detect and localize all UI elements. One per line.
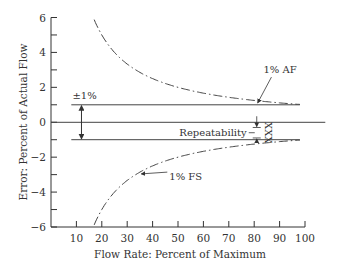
x-tick-label: 60 [197,232,210,244]
x-tick-label: 80 [248,232,261,244]
x-tick-label: 30 [121,232,134,244]
y-tick-label: −6 [31,221,47,233]
x-tick-label: 40 [146,232,159,244]
x-tick-label: 100 [295,232,315,244]
annotations-group: ±1%1% AF1% FSRepeatabilityXXX [72,64,296,182]
series-1-fs-upper [94,20,300,105]
x-axis-label: Flow Rate: Percent of Maximum [94,248,266,260]
annotation-1pct-fs-arrow [141,172,167,174]
y-tick-label: 4 [39,46,46,58]
x-tick-label: 70 [222,232,235,244]
y-tick-label: −2 [31,151,46,163]
series-1-fs-lower [94,140,300,225]
y-axis-label: Error: Percent of Actual Flow [17,43,29,200]
y-tick-label: −4 [31,186,47,198]
chart: 6420−2−4−6102030405060708090100 ±1%1% AF… [0,0,341,270]
annotation-1pct-fs-label: 1% FS [169,171,202,182]
x-tick-label: 10 [70,232,83,244]
annotation-1pct-af-arrow [258,77,272,103]
annotation-xxx-marks: XXX [263,122,274,144]
series-group [51,20,325,225]
annotation-1pct-af-label: 1% AF [263,64,296,75]
y-tick-label: 0 [39,116,46,128]
annotation-repeatability-label: Repeatability [179,127,247,138]
annotation-pm1-label: ±1% [72,90,96,101]
x-tick-label: 90 [273,232,286,244]
y-tick-label: 6 [39,12,46,24]
x-tick-label: 20 [95,232,108,244]
x-tick-label: 50 [171,232,184,244]
y-tick-label: 2 [39,81,46,93]
